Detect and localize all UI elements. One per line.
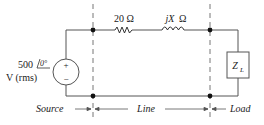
source-magnitude-value: 500 <box>18 59 33 70</box>
circuit-diagram: + − 500 0° V (rms) 20 Ω jX Ω Z L Source <box>0 0 264 125</box>
node-bottom-right <box>208 94 213 99</box>
nodes <box>91 28 213 99</box>
source-angle: 0° <box>37 59 50 68</box>
source-plus-sign: + <box>63 60 68 70</box>
section-line-label: Line <box>136 103 155 114</box>
load-label: Z <box>232 60 238 71</box>
node-bottom-left <box>91 94 96 99</box>
source-magnitude: 500 <box>18 59 33 70</box>
load-label-main: Z <box>232 60 238 71</box>
node-top-right <box>208 28 213 33</box>
resistor-label: 20 Ω <box>114 13 134 24</box>
load-impedance-box <box>227 52 249 78</box>
load-label-sub: L <box>239 66 244 74</box>
inductor-icon <box>162 27 184 30</box>
source-minus-sign: − <box>63 74 68 84</box>
reactance-label: jX Ω <box>164 13 187 24</box>
reactance-prefix: jX <box>164 13 176 24</box>
wires <box>66 30 238 96</box>
node-top-left <box>91 28 96 33</box>
resistor-icon <box>115 27 132 33</box>
source-unit: V (rms) <box>6 72 37 84</box>
section-load-label: Load <box>229 103 252 114</box>
source-angle-value: 0° <box>40 59 48 68</box>
section-source-label: Source <box>36 103 64 114</box>
reactance-unit: Ω <box>179 13 186 24</box>
